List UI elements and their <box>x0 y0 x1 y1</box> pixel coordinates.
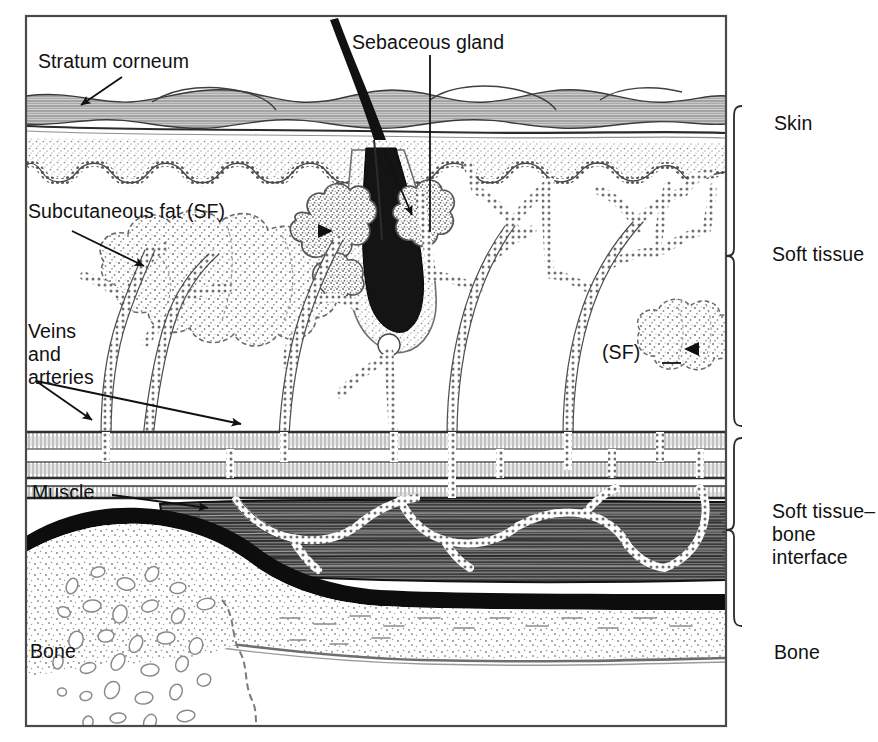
figure-canvas: Stratum corneum Sebaceous gland Subcutan… <box>0 0 878 742</box>
bracket-label-soft-tissue-bone-interface: Soft tissue– bone interface <box>772 500 875 569</box>
label-sf-abbrev: (SF) <box>602 341 640 364</box>
label-muscle: Muscle <box>32 481 94 504</box>
label-stratum-corneum: Stratum corneum <box>38 50 189 73</box>
subcutaneous-fat-right <box>638 299 735 369</box>
anatomy-illustration <box>0 0 878 742</box>
fascia-layers <box>26 432 726 498</box>
section-brackets <box>726 106 742 626</box>
bracket-soft-tissue-bone <box>726 438 742 626</box>
bracket-label-skin: Skin <box>774 112 812 135</box>
bracket-label-soft-tissue: Soft tissue <box>772 243 864 266</box>
bracket-soft-tissue <box>726 106 742 426</box>
label-sebaceous-gland: Sebaceous gland <box>352 31 504 54</box>
label-bone-left: Bone <box>30 640 76 663</box>
label-veins-and-arteries: Veins and arteries <box>28 320 94 389</box>
label-subcutaneous-fat: Subcutaneous fat (SF) <box>28 200 225 223</box>
bracket-label-bone: Bone <box>774 641 820 664</box>
